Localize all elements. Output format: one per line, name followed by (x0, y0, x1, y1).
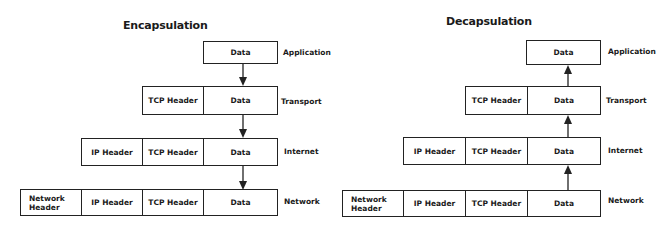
decap-layer-transport: Transport (606, 96, 647, 105)
encap-network-packet: Network Header IP Header TCP Header Data (20, 189, 278, 216)
ip-header-cell: IP Header (404, 191, 466, 216)
encapsulation-title: Encapsulation (123, 19, 208, 32)
tcp-header-cell: TCP Header (143, 139, 204, 165)
data-cell: Data (204, 42, 277, 63)
tcp-header-cell: TCP Header (143, 87, 204, 114)
decap-application-packet: Data (526, 40, 601, 65)
decap-layer-application: Application (608, 47, 656, 56)
encap-layer-internet: Internet (284, 147, 319, 156)
network-header-cell: Network Header (21, 190, 82, 215)
encap-transport-packet: TCP Header Data (142, 86, 278, 115)
tcp-header-cell: TCP Header (466, 138, 528, 164)
data-cell: Data (528, 191, 600, 216)
encap-internet-packet: IP Header TCP Header Data (81, 138, 278, 166)
ip-header-cell: IP Header (82, 190, 143, 215)
decap-layer-network: Network (608, 196, 644, 205)
arrow-up-icon (563, 165, 573, 190)
data-cell: Data (204, 87, 277, 114)
arrow-up-icon (563, 65, 573, 86)
data-cell: Data (528, 138, 600, 164)
arrow-down-icon (238, 166, 248, 190)
data-cell: Data (204, 190, 277, 215)
tcp-header-cell: TCP Header (466, 87, 528, 114)
arrow-down-icon (238, 63, 248, 86)
encap-layer-application: Application (283, 48, 331, 57)
ip-header-cell: IP Header (404, 138, 466, 164)
data-cell: Data (528, 87, 600, 114)
encap-layer-transport: Transport (281, 97, 322, 106)
decap-internet-packet: IP Header TCP Header Data (403, 137, 601, 165)
tcp-header-cell: TCP Header (466, 191, 528, 216)
decap-network-packet: Network Header IP Header TCP Header Data (342, 190, 601, 217)
data-cell: Data (527, 41, 600, 64)
encap-application-packet: Data (203, 41, 278, 64)
decap-layer-internet: Internet (608, 146, 643, 155)
arrow-up-icon (563, 115, 573, 137)
ip-header-cell: IP Header (82, 139, 143, 165)
decapsulation-title: Decapsulation (446, 15, 532, 28)
tcp-header-cell: TCP Header (143, 190, 204, 215)
network-header-cell: Network Header (343, 191, 404, 216)
data-cell: Data (204, 139, 277, 165)
encap-layer-network: Network (284, 197, 320, 206)
arrow-down-icon (238, 115, 248, 138)
decap-transport-packet: TCP Header Data (465, 86, 601, 115)
